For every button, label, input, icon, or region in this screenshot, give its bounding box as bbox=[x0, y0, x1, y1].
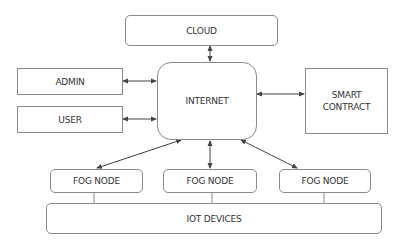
smart-contract-node: SMART CONTRACT bbox=[305, 68, 388, 134]
fog-node-1: FOG NODE bbox=[50, 169, 143, 193]
fog-node-2-label: FOG NODE bbox=[187, 175, 234, 187]
user-label: USER bbox=[58, 114, 81, 126]
iot-devices-label: IOT DEVICES bbox=[186, 213, 241, 225]
fog-node-1-label: FOG NODE bbox=[73, 175, 120, 187]
fog-node-3: FOG NODE bbox=[279, 169, 371, 193]
edge-internet-fog-node-1 bbox=[97, 140, 181, 168]
cloud-label: CLOUD bbox=[186, 25, 217, 37]
cloud-node: CLOUD bbox=[125, 15, 278, 46]
internet-label: INTERNET bbox=[185, 95, 228, 107]
fog-node-2: FOG NODE bbox=[163, 169, 257, 193]
edge-internet-fog-node-3 bbox=[241, 140, 297, 168]
admin-node: ADMIN bbox=[17, 68, 123, 95]
fog-node-3-label: FOG NODE bbox=[302, 175, 349, 187]
admin-label: ADMIN bbox=[55, 76, 84, 88]
smart-contract-label: SMART CONTRACT bbox=[316, 89, 377, 113]
iot-devices-node: IOT DEVICES bbox=[46, 203, 382, 234]
internet-node: INTERNET bbox=[157, 62, 257, 140]
user-node: USER bbox=[17, 106, 123, 133]
